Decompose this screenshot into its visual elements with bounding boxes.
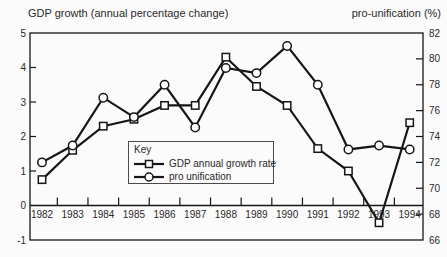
data-point-circle [252, 69, 260, 77]
data-point-square [192, 102, 199, 109]
legend-title: Key [134, 144, 273, 157]
data-point-circle [130, 113, 138, 121]
x-axis-tick-label: 1983 [62, 209, 85, 220]
right-axis-tick-label: 82 [429, 28, 441, 39]
left-axis-tick-label: 2 [20, 131, 26, 142]
x-axis-tick-label: 1992 [337, 209, 360, 220]
data-point-circle [375, 141, 383, 149]
chart: GDP growth (annual percentage change) pr… [0, 0, 447, 257]
left-axis-tick-label: -1 [17, 235, 26, 246]
right-axis-tick-label: 78 [429, 79, 441, 90]
x-axis-tick-label: 1982 [31, 209, 54, 220]
data-point-circle [99, 93, 107, 101]
plot-area: 543210-182807876747270686619821983198419… [0, 0, 447, 257]
legend-label-pro-unification: pro unification [169, 171, 231, 183]
data-point-square [406, 119, 413, 126]
series-line-0 [42, 57, 410, 223]
right-axis-tick-label: 68 [429, 209, 441, 220]
data-point-circle [314, 81, 322, 89]
left-axis-tick-label: 4 [20, 62, 26, 73]
chart-legend: Key GDP annual growth rate pro unificati… [128, 141, 274, 184]
x-axis-tick-label: 1985 [123, 209, 146, 220]
data-point-circle [160, 81, 168, 89]
legend-label-gdp-growth: GDP annual growth rate [169, 158, 276, 170]
right-axis-tick-label: 66 [429, 235, 441, 246]
circle-marker-icon [134, 171, 164, 183]
left-axis-tick-label: 1 [20, 166, 26, 177]
x-axis-tick-label: 1994 [399, 209, 422, 220]
left-axis-tick-label: 0 [20, 200, 26, 211]
x-axis-tick-label: 1988 [215, 209, 238, 220]
data-point-circle [222, 64, 230, 72]
legend-item-pro-unification: pro unification [134, 171, 273, 185]
x-axis-tick-label: 1987 [184, 209, 207, 220]
data-point-square [375, 219, 382, 226]
right-axis-tick-label: 72 [429, 157, 441, 168]
data-point-circle [68, 141, 76, 149]
legend-item-gdp-growth: GDP annual growth rate [134, 157, 273, 171]
right-axis-tick-label: 80 [429, 53, 441, 64]
data-point-square [100, 122, 107, 129]
x-axis-tick-label: 1991 [307, 209, 330, 220]
x-axis-tick-label: 1989 [245, 209, 268, 220]
right-axis-tick-label: 76 [429, 105, 441, 116]
data-point-square [314, 145, 321, 152]
data-point-square [253, 83, 260, 90]
x-axis-tick-label: 1984 [92, 209, 115, 220]
data-point-circle [191, 123, 199, 131]
x-axis-tick-label: 1986 [153, 209, 176, 220]
left-axis-tick-label: 5 [20, 28, 26, 39]
data-point-square [283, 102, 290, 109]
right-axis-tick-label: 74 [429, 131, 441, 142]
data-point-circle [38, 158, 46, 166]
data-point-circle [406, 145, 414, 153]
data-point-circle [283, 42, 291, 50]
square-marker-icon [134, 158, 164, 170]
right-axis-tick-label: 70 [429, 183, 441, 194]
data-point-square [345, 167, 352, 174]
data-point-square [38, 176, 45, 183]
data-point-square [222, 53, 229, 60]
data-point-circle [344, 145, 352, 153]
left-axis-tick-label: 3 [20, 97, 26, 108]
data-point-square [161, 102, 168, 109]
x-axis-tick-label: 1990 [276, 209, 299, 220]
